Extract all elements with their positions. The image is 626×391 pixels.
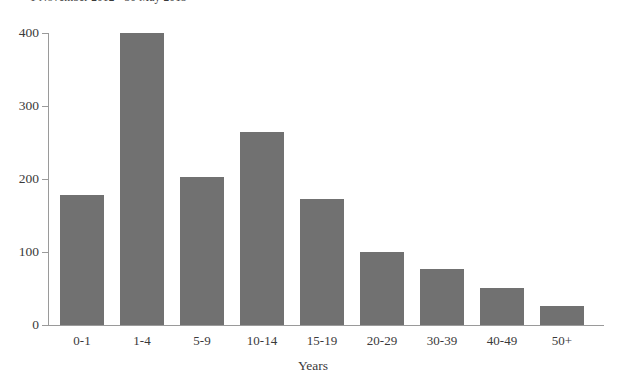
bar	[240, 132, 284, 325]
y-axis-tick-mark	[42, 325, 48, 326]
chart-title: 1 November 2012 - 30 May 2013	[30, 0, 187, 3]
bar-chart-figure: 1 November 2012 - 30 May 2013 0100200300…	[0, 0, 626, 391]
x-axis-line	[48, 325, 604, 326]
bar	[60, 195, 104, 325]
x-axis-tick-label: 5-9	[172, 333, 232, 349]
y-axis-tick-label: 400	[19, 25, 39, 41]
bar	[480, 288, 524, 325]
bar	[180, 177, 224, 325]
y-axis-tick-mark	[42, 33, 48, 34]
x-axis-tick-label: 0-1	[52, 333, 112, 349]
x-axis-tick-label: 30-39	[412, 333, 472, 349]
bar	[300, 199, 344, 325]
x-axis-tick-label: 1-4	[112, 333, 172, 349]
x-axis-tick-label: 40-49	[472, 333, 532, 349]
x-axis-tick-label: 15-19	[292, 333, 352, 349]
x-axis-tick-label: 10-14	[232, 333, 292, 349]
x-axis-tick-label: 50+	[532, 333, 592, 349]
bar	[120, 33, 164, 325]
y-axis-tick-mark	[42, 252, 48, 253]
bar	[540, 306, 584, 325]
x-axis-tick-label: 20-29	[352, 333, 412, 349]
y-axis-tick-label: 0	[32, 317, 39, 333]
y-axis-tick-label: 100	[19, 244, 39, 260]
x-axis-title: Years	[0, 358, 626, 374]
bar	[420, 269, 464, 325]
y-axis-tick-mark	[42, 179, 48, 180]
bar	[360, 252, 404, 325]
y-axis-tick-label: 300	[19, 98, 39, 114]
plot-area: 0100200300400	[48, 33, 608, 325]
y-axis-tick-mark	[42, 106, 48, 107]
y-axis-tick-label: 200	[19, 171, 39, 187]
